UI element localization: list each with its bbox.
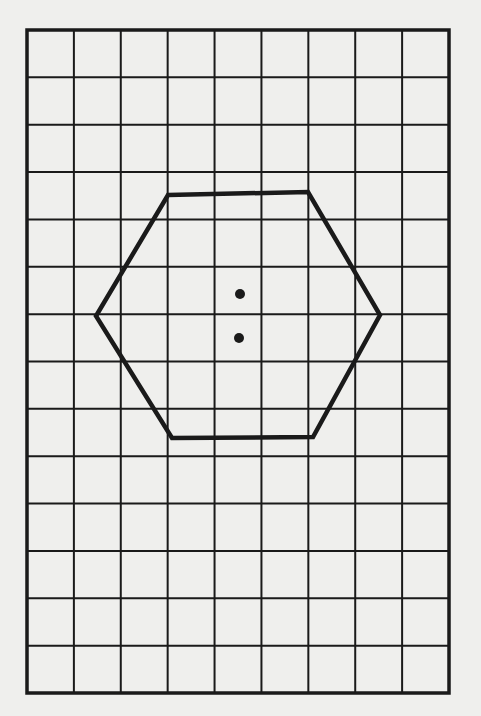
center-dots: [234, 289, 245, 343]
grid-diagram: [0, 0, 481, 716]
grid-lines: [27, 30, 449, 693]
diagram-canvas: [0, 0, 481, 716]
dot: [234, 333, 244, 343]
dot: [235, 289, 245, 299]
